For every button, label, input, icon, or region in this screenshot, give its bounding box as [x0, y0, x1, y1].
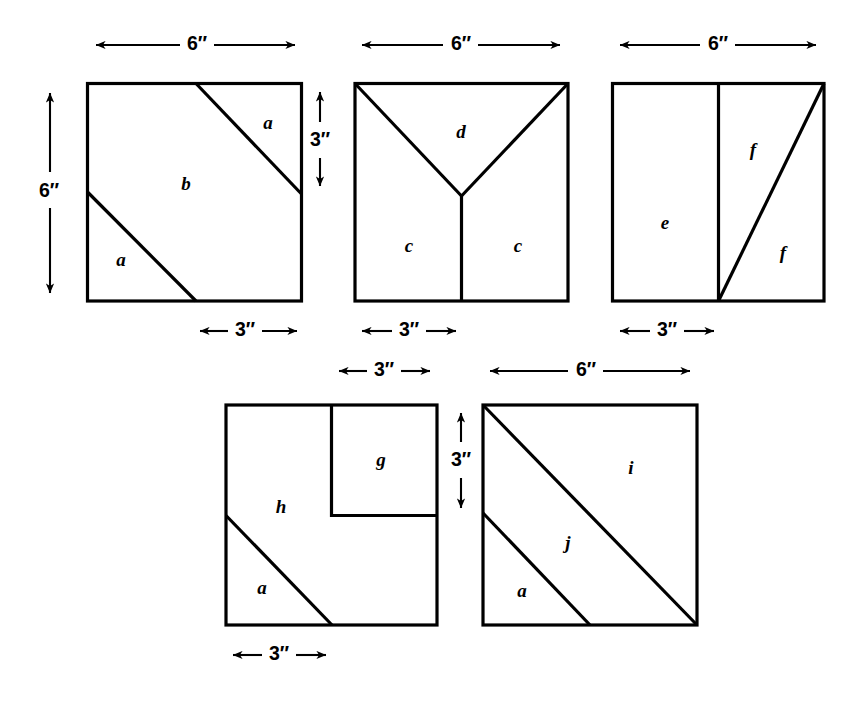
dim-label-bottom: 3″ [657, 318, 677, 340]
dim-label-top: 6″ [451, 32, 471, 54]
dim-label-bottom: 3″ [235, 318, 255, 340]
piece-label-a: a [263, 112, 273, 133]
piece-label-e: e [661, 212, 670, 233]
piece-label-d: d [456, 121, 466, 142]
piece-label-a: a [517, 580, 527, 601]
dim-label-right: 3″ [310, 128, 330, 150]
dim-label-right: 3″ [451, 448, 471, 470]
piece-label-a: a [116, 249, 126, 270]
square-2-group: d c c [355, 84, 568, 302]
square-5-group: i j a [483, 405, 697, 625]
piece-label-h: h [276, 496, 287, 517]
piece-label-b: b [181, 173, 191, 194]
dim-label-left: 6″ [39, 179, 59, 201]
piece-label-c: c [514, 235, 523, 256]
piece-label-g: g [375, 449, 386, 470]
piece-label-c: c [405, 235, 414, 256]
dissection-figure: a b a 6″ 6″ 3″ 3″ [0, 0, 863, 701]
dim-label-top: 6″ [187, 32, 207, 54]
square-3-group: e f f [613, 84, 825, 302]
square-4-group: g h a [226, 405, 437, 625]
figure-canvas: a b a 6″ 6″ 3″ 3″ [0, 0, 863, 701]
dim-label-top: 6″ [576, 358, 596, 380]
dim-label-top: 6″ [708, 32, 728, 54]
square-5-dimensions: 6″ [490, 358, 690, 380]
dim-label-bottom: 3″ [399, 318, 419, 340]
dim-label-bottom: 3″ [269, 642, 289, 664]
piece-label-i: i [628, 457, 634, 478]
dim-label-top: 3″ [374, 358, 394, 380]
square-1-group: a b a [88, 84, 302, 302]
piece-label-a: a [257, 577, 267, 598]
